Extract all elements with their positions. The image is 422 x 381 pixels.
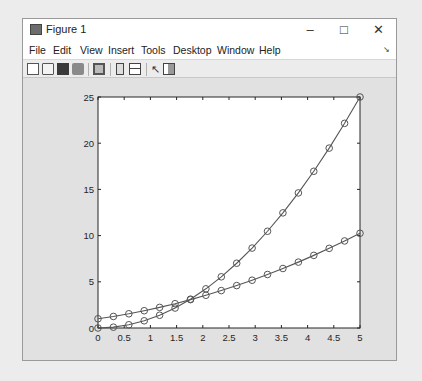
x-tick-label: 3.5 xyxy=(275,332,288,343)
toolbar-separator xyxy=(110,63,111,76)
x-tick-label: 1 xyxy=(148,332,153,343)
x-tick-label: 1.5 xyxy=(170,332,183,343)
menu-bar: File Edit View Insert Tools Desktop Wind… xyxy=(23,41,396,59)
maximize-button[interactable]: □ xyxy=(329,21,359,39)
legend-icon[interactable] xyxy=(129,63,141,75)
menu-view[interactable]: View xyxy=(80,44,103,56)
pointer-arrow-icon[interactable]: ↖ xyxy=(151,63,163,75)
matlab-figure-icon xyxy=(30,24,42,35)
x-tick-label: 4 xyxy=(305,332,310,343)
axes-box[interactable] xyxy=(98,97,360,328)
y-tick-label: 0 xyxy=(89,323,94,334)
save-icon[interactable] xyxy=(57,63,69,75)
y-tick-label: 20 xyxy=(83,138,94,149)
y-tick-label: 15 xyxy=(83,184,94,195)
new-figure-icon[interactable] xyxy=(27,63,39,75)
close-button[interactable]: ✕ xyxy=(363,21,393,39)
y-tick-label: 5 xyxy=(89,276,94,287)
menu-file[interactable]: File xyxy=(29,44,46,56)
colorbar-icon[interactable] xyxy=(116,63,124,75)
x-tick-label: 0.5 xyxy=(118,332,131,343)
x-tick-label: 3 xyxy=(253,332,258,343)
x-tick-label: 5 xyxy=(357,332,362,343)
print-preview-icon[interactable] xyxy=(93,63,105,75)
toolbar: ↖ xyxy=(23,59,396,78)
window-title: Figure 1 xyxy=(46,23,86,35)
menu-tools[interactable]: Tools xyxy=(141,44,166,56)
x-tick-label: 4.5 xyxy=(327,332,340,343)
toolbar-separator xyxy=(88,63,89,76)
property-inspector-icon[interactable] xyxy=(163,63,175,75)
minimize-button[interactable]: – xyxy=(295,21,325,39)
menu-edit[interactable]: Edit xyxy=(53,44,71,56)
figure-window: Figure 1 – □ ✕ File Edit View Insert Too… xyxy=(22,18,397,361)
x-tick-label: 0 xyxy=(95,332,100,343)
open-file-icon[interactable] xyxy=(42,63,54,75)
menu-window[interactable]: Window xyxy=(217,44,254,56)
menu-insert[interactable]: Insert xyxy=(108,44,134,56)
title-bar[interactable]: Figure 1 – □ ✕ xyxy=(23,19,396,41)
x-tick-label: 2 xyxy=(200,332,205,343)
figure-canvas: 00.511.522.533.544.550510152025 xyxy=(23,78,396,360)
toolbar-separator xyxy=(146,63,147,76)
print-icon[interactable] xyxy=(72,63,84,75)
line-chart[interactable]: 00.511.522.533.544.550510152025 xyxy=(23,78,396,360)
menu-help[interactable]: Help xyxy=(259,44,281,56)
y-tick-label: 25 xyxy=(83,92,94,103)
y-tick-label: 10 xyxy=(83,230,94,241)
menu-desktop[interactable]: Desktop xyxy=(173,44,212,56)
dock-arrow-icon[interactable]: ↘ xyxy=(383,45,390,54)
x-tick-label: 2.5 xyxy=(222,332,235,343)
